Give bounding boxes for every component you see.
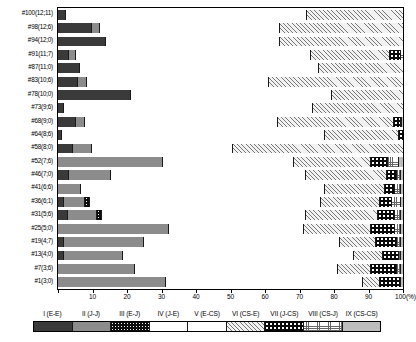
x-axis-tick-label: 50	[227, 294, 234, 301]
bar-segment-ix	[400, 237, 403, 247]
table-row	[58, 277, 403, 287]
legend-item-label: VIII (CS-J)	[308, 308, 338, 319]
bar-segment-vi	[331, 90, 403, 100]
bar-segment-iv	[65, 10, 307, 20]
bar-segment-ii	[68, 50, 75, 60]
bar-segment-i	[58, 144, 72, 154]
bar-segment-iv	[61, 130, 323, 140]
table-row	[58, 77, 403, 87]
bar-segment-iv	[99, 23, 278, 33]
legend-swatch	[226, 322, 265, 331]
y-axis-tick-label: #83(10;6)	[28, 77, 53, 83]
bar-segment-iv	[168, 224, 303, 234]
bar-segment-ii	[72, 144, 91, 154]
bar-segment-viii	[391, 197, 400, 207]
y-axis-tick-label: #100(12;11)	[22, 10, 53, 16]
bar-segment-vii	[389, 50, 399, 60]
bar-segment-ix	[400, 170, 403, 180]
table-row	[58, 103, 403, 113]
y-axis-tick-label: #41(6;6)	[31, 184, 53, 190]
x-axis-tick-label: 60	[261, 294, 268, 301]
table-row	[58, 63, 403, 73]
x-axis-tick-label: 90	[365, 294, 372, 301]
bar-segment-viii	[400, 50, 403, 60]
bar-segment-iv	[165, 277, 362, 287]
bar-segment-ix	[401, 117, 403, 127]
bar-segment-i	[58, 63, 79, 73]
bar-segment-iv	[89, 197, 320, 207]
bar-segment-vi	[306, 10, 403, 20]
bar-segment-vi	[279, 23, 403, 33]
bar-segment-iv	[84, 117, 277, 127]
bar-segment-iv	[130, 90, 330, 100]
bar-segment-ix	[400, 251, 403, 261]
table-row	[58, 184, 403, 194]
bar-segment-vi	[232, 144, 403, 154]
bar-segment-vii	[375, 237, 396, 247]
table-row	[58, 210, 403, 220]
table-row	[58, 130, 403, 140]
bar-segment-ii	[58, 224, 168, 234]
bar-segment-i	[58, 170, 68, 180]
x-axis-tick-label: 70	[296, 294, 303, 301]
y-axis-tick-label: #36(6;1)	[31, 198, 53, 204]
bar-segment-iv	[134, 264, 338, 274]
legend-swatch-row	[33, 321, 381, 332]
legend-swatch	[303, 322, 342, 331]
bar-segment-vii	[370, 157, 387, 167]
y-axis-tick-label: #31(5;6)	[31, 211, 53, 217]
bar-segment-ii	[63, 251, 122, 261]
bar-segment-i	[58, 77, 77, 87]
bar-segment-ii	[67, 210, 96, 220]
legend-item-label: V (E-CS)	[194, 308, 220, 319]
table-row	[58, 10, 403, 20]
bar-segment-iv	[63, 103, 311, 113]
bar-segment-vi	[293, 157, 371, 167]
bar-segment-viii	[387, 157, 397, 167]
bar-segment-vi	[312, 103, 403, 113]
x-axis-tick-label: 30	[158, 294, 165, 301]
y-axis-tick-label: #1(3;0)	[34, 278, 53, 284]
bar-segment-iv	[110, 170, 305, 180]
legend-swatch	[187, 322, 226, 331]
bar-segment-ii	[58, 264, 134, 274]
y-axis-tick-label: #73(9;6)	[31, 104, 53, 110]
bar-segment-iv	[91, 144, 232, 154]
y-axis-tick-label: #13(4;0)	[31, 251, 53, 257]
bar-segment-ii	[77, 77, 86, 87]
bar-segment-ix	[400, 184, 403, 194]
y-axis-tick-label: #52(7;6)	[31, 158, 53, 164]
y-axis-tick-label: #68(9;0)	[31, 118, 53, 124]
y-axis-tick-label: #87(11;0)	[28, 64, 53, 70]
bar-segment-i	[58, 50, 68, 60]
x-axis-tick-label: 10	[89, 294, 96, 301]
bar-segment-vi	[353, 251, 382, 261]
y-axis-tick-label: #64(8;6)	[31, 131, 53, 137]
legend-item-label: IV (J-E)	[158, 308, 180, 319]
legend-swatch	[342, 322, 381, 331]
legend-swatch	[149, 322, 188, 331]
bar-segment-vii	[386, 170, 396, 180]
table-row	[58, 264, 403, 274]
bar-segment-ix	[400, 197, 403, 207]
bar-segment-vi	[324, 130, 398, 140]
bar-segment-ix	[400, 264, 403, 274]
bar-segment-i	[58, 90, 130, 100]
x-axis-tick-label: 40	[192, 294, 199, 301]
bar-segment-iv	[79, 63, 319, 73]
y-axis-tick-label: #58(8;0)	[31, 144, 53, 150]
bar-segment-vi	[320, 197, 379, 207]
legend-label-row: I (E-E)II (J-J)III (E-J)IV (J-E)V (E-CS)…	[33, 308, 381, 319]
y-axis-tick-label: #98(12;6)	[28, 24, 53, 30]
chart-legend: I (E-E)II (J-J)III (E-J)IV (J-E)V (E-CS)…	[33, 308, 381, 338]
x-axis-tick	[58, 290, 59, 293]
bar-segment-ix	[400, 277, 403, 287]
legend-item-label: VI (CS-E)	[232, 308, 259, 319]
bar-segment-i	[58, 117, 75, 127]
bar-segment-vi	[305, 170, 386, 180]
bar-segment-ii	[75, 117, 84, 127]
bar-segment-iv	[105, 37, 279, 47]
bar-segment-vii	[377, 210, 394, 220]
bar-segment-ii	[63, 237, 142, 247]
x-axis-tick-label: 100(%)	[395, 294, 416, 301]
